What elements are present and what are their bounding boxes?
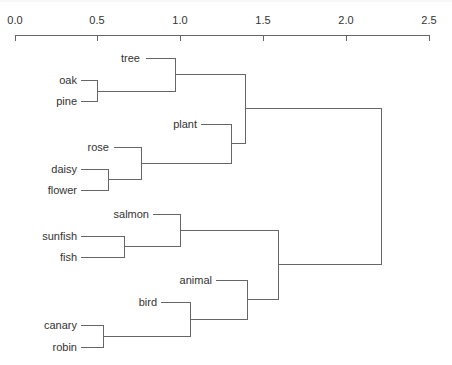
axis-tick-label: 0.5 (89, 14, 104, 26)
leaf-label-pine: pine (56, 95, 77, 107)
leaf-label-plant: plant (173, 118, 197, 130)
axis-tick-label: 2.0 (338, 14, 353, 26)
branch-plant (142, 125, 232, 164)
leaf-label-flower: flower (48, 184, 78, 196)
branch-animal (191, 281, 248, 320)
leaf-label-rose: rose (88, 141, 109, 153)
axis-tick-label: 0.0 (7, 14, 22, 26)
branch-canary-robin (81, 326, 104, 348)
axis-tick-label: 2.5 (421, 14, 436, 26)
leaf-label-animal: animal (180, 274, 212, 286)
dendrogram-chart: 0.0 0.5 1.0 1.5 2.0 2.5 tree oak pine pl… (0, 0, 452, 365)
leaf-label-robin: robin (53, 341, 77, 353)
branch-rose (109, 148, 142, 180)
dendrogram-branches (81, 59, 382, 348)
leaf-label-bird: bird (139, 296, 157, 308)
axis-tick-label: 1.5 (255, 14, 270, 26)
leaf-label-canary: canary (44, 319, 78, 331)
branch-oak-pine (81, 81, 98, 102)
leaf-label-sunfish: sunfish (42, 230, 77, 242)
branch-plants-all (176, 75, 246, 144)
leaf-label-tree: tree (121, 52, 140, 64)
leaf-label-salmon: salmon (114, 208, 149, 220)
leaf-label-daisy: daisy (51, 163, 77, 175)
branch-sunfish-fish (81, 237, 125, 258)
leaf-label-fish: fish (60, 251, 77, 263)
x-axis: 0.0 0.5 1.0 1.5 2.0 2.5 (7, 14, 436, 41)
leaf-label-oak: oak (59, 74, 77, 86)
leaf-labels: tree oak pine plant rose daisy flower sa… (42, 52, 212, 353)
branch-root (246, 109, 382, 265)
branch-daisy-flower (81, 170, 109, 191)
axis-tick-label: 1.0 (172, 14, 187, 26)
branch-animals-all (181, 231, 279, 300)
